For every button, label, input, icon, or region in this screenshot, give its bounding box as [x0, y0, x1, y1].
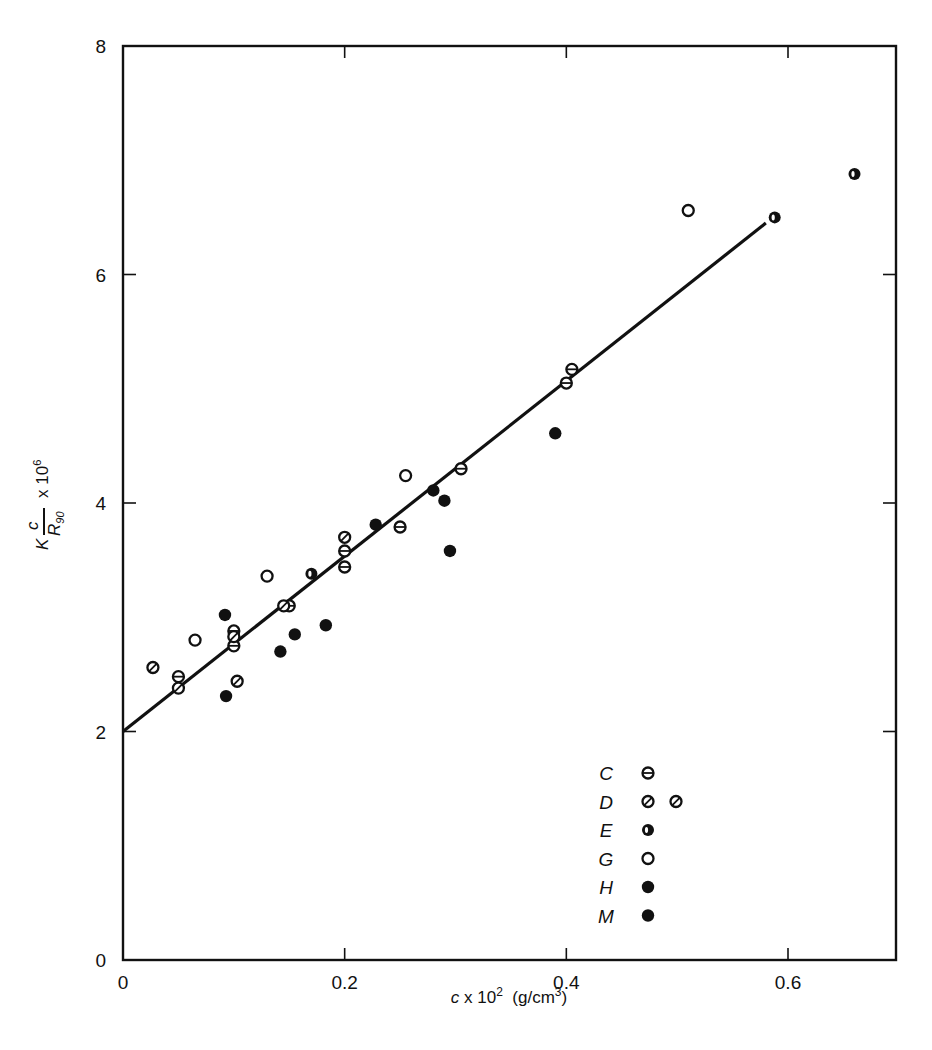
- legend-label: E: [600, 820, 613, 841]
- y-tick-label: 8: [95, 36, 106, 57]
- marker-circle-half-filled: [642, 824, 654, 836]
- legend-label: M: [598, 906, 614, 927]
- marker-circle-half-filled: [305, 568, 317, 580]
- marker-circle-diagonal-bar: [173, 683, 184, 694]
- marker-circle-horizontal-bar: [456, 463, 467, 474]
- marker-circle-filled: [370, 519, 382, 531]
- y-tick-label: 6: [95, 265, 106, 286]
- marker-circle-filled: [438, 495, 450, 507]
- y-tick-label: 2: [95, 722, 106, 743]
- marker-circle-diagonal-bar: [643, 796, 654, 807]
- marker-circle-half-filled: [849, 168, 861, 180]
- marker-circle-open: [190, 635, 201, 646]
- marker-circle-diagonal-bar: [278, 600, 289, 611]
- marker-circle-open: [643, 853, 654, 864]
- y-tick-label: 0: [95, 950, 106, 971]
- marker-circle-filled: [427, 484, 439, 496]
- marker-circle-filled: [289, 628, 301, 640]
- legend-label: G: [599, 849, 614, 870]
- marker-circle-diagonal-bar: [671, 796, 682, 807]
- marker-circle-horizontal-bar: [173, 671, 184, 682]
- marker-circle-horizontal-bar: [339, 561, 350, 572]
- x-tick-label: 0.2: [331, 972, 357, 993]
- marker-circle-horizontal-bar: [643, 768, 654, 779]
- marker-circle-horizontal-bar: [566, 364, 577, 375]
- scatter-chart: 00.20.40.602468 c x 102 (g/cm3) K c R90 …: [0, 0, 932, 1050]
- marker-circle-open: [683, 205, 694, 216]
- marker-circle-filled: [219, 609, 231, 621]
- marker-circle-filled: [220, 690, 232, 702]
- svg-text:K: K: [33, 538, 52, 550]
- legend-label: H: [599, 877, 613, 898]
- x-tick-label: 0: [118, 972, 129, 993]
- marker-circle-filled: [320, 619, 332, 631]
- marker-circle-horizontal-bar: [561, 378, 572, 389]
- svg-text:c: c: [23, 521, 42, 530]
- marker-circle-half-filled: [769, 211, 781, 223]
- marker-circle-filled: [549, 427, 561, 439]
- x-axis-label: c x 102 (g/cm3): [451, 985, 567, 1007]
- marker-circle-diagonal-bar: [339, 532, 350, 543]
- legend-label: D: [599, 792, 613, 813]
- marker-circle-diagonal-bar: [147, 662, 158, 673]
- x-tick-label: 0.6: [775, 972, 801, 993]
- legend-label: C: [599, 763, 613, 784]
- marker-circle-open: [400, 470, 411, 481]
- marker-circle-diagonal-bar: [232, 676, 243, 687]
- marker-circle-filled: [274, 645, 286, 657]
- y-tick-label: 4: [95, 493, 106, 514]
- marker-circle-horizontal-bar: [339, 545, 350, 556]
- marker-circle-filled: [642, 881, 654, 893]
- marker-circle-filled: [444, 545, 456, 557]
- marker-circle-filled: [642, 909, 654, 921]
- marker-circle-diagonal-bar: [228, 631, 239, 642]
- marker-circle-open: [262, 571, 273, 582]
- marker-circle-horizontal-bar: [395, 521, 406, 532]
